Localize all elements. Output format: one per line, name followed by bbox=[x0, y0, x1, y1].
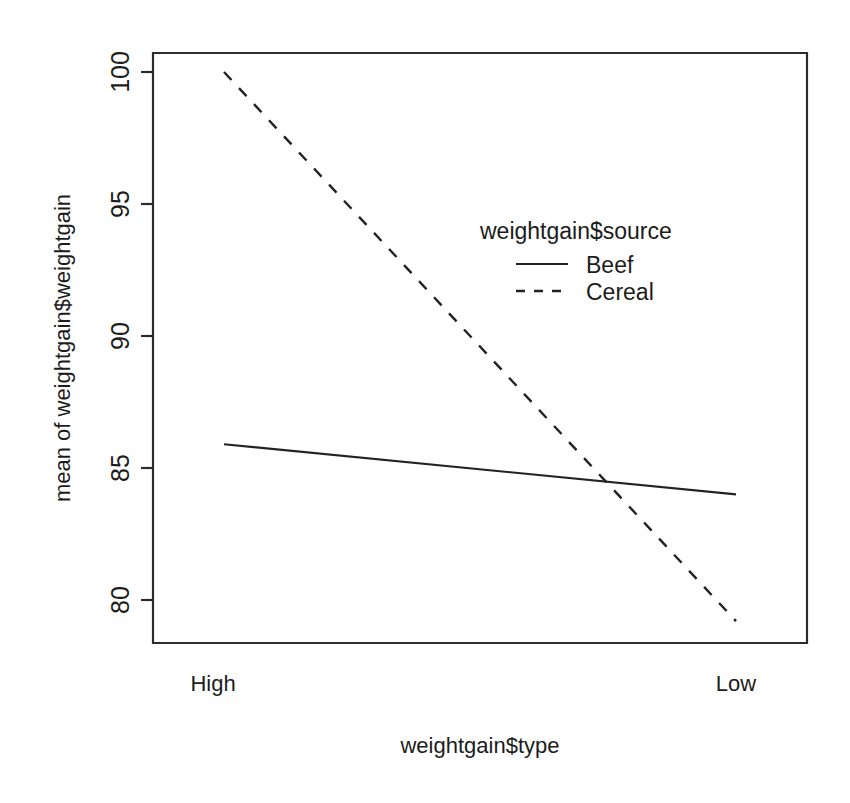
y-tick-label-85: 85 bbox=[106, 454, 134, 482]
y-tick-label-90: 90 bbox=[106, 322, 134, 350]
x-axis-title: weightgain$type bbox=[399, 733, 559, 758]
x-tick-label-high: High bbox=[190, 671, 235, 696]
legend-label-cereal: Cereal bbox=[586, 279, 654, 305]
legend-label-beef: Beef bbox=[586, 252, 634, 278]
legend-title: weightgain$source bbox=[479, 218, 672, 244]
y-axis-tick-labels: 100 95 90 85 80 bbox=[106, 51, 134, 614]
series-line-cereal bbox=[224, 72, 736, 621]
x-tick-label-low: Low bbox=[716, 671, 756, 696]
y-tick-label-100: 100 bbox=[106, 51, 134, 93]
y-axis-title: mean of weightgain$weightgain bbox=[50, 194, 75, 502]
plot-canvas: 100 95 90 85 80 mean of weightgain$weigh… bbox=[0, 0, 850, 803]
series-line-beef bbox=[224, 444, 736, 494]
interaction-plot: 100 95 90 85 80 mean of weightgain$weigh… bbox=[0, 0, 850, 803]
y-axis-ticks bbox=[141, 72, 153, 600]
legend: weightgain$source Beef Cereal bbox=[479, 218, 672, 305]
y-tick-label-95: 95 bbox=[106, 190, 134, 218]
y-tick-label-80: 80 bbox=[106, 586, 134, 614]
